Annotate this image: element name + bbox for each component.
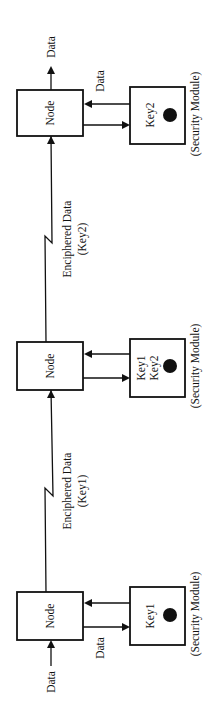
arrow-right-icon: [122, 121, 130, 129]
arrow-up-icon: [47, 136, 55, 144]
link-label-line2: (Key1): [76, 475, 89, 508]
arrow-left-icon: [84, 350, 92, 358]
key-dot-icon: [163, 359, 177, 373]
node-label-middle: Node: [44, 354, 56, 379]
node-label-bottom: Node: [44, 604, 56, 629]
module-key-label: Key2: [148, 355, 161, 380]
side-data-label-top: Data: [94, 70, 106, 92]
stage-bottom: Node Data Key1 (Security Module) Data: [17, 572, 202, 693]
module-key-label: Key1: [144, 603, 157, 628]
input-data-label: Data: [45, 671, 57, 693]
link-line-lightning: [45, 390, 53, 592]
stage-top: Data Node Data Key2 (Security Module): [17, 36, 202, 156]
node-label-top: Node: [44, 101, 56, 126]
arrow-up-icon: [47, 640, 55, 648]
stage-middle: Node Key1 Key2 (Security Module): [17, 324, 202, 409]
output-data-label: Data: [45, 36, 57, 58]
arrow-left-icon: [84, 599, 92, 607]
link-label-line1: Enciphered Data: [61, 453, 74, 530]
module-key-label: Key2: [144, 102, 157, 127]
module-caption-top: (Security Module): [189, 72, 202, 157]
module-caption-middle: (Security Module): [189, 324, 202, 409]
key-dot-icon: [163, 608, 177, 622]
link-label-line1: Enciphered Data: [61, 201, 74, 278]
arrow-left-icon: [84, 100, 92, 108]
module-caption-bottom: (Security Module): [189, 572, 202, 657]
link-line-lightning: [45, 136, 52, 342]
link-1: Enciphered Data (Key2): [45, 136, 89, 342]
side-data-label-bottom: Data: [94, 637, 106, 659]
arrow-up-icon: [47, 390, 55, 398]
encryption-diagram: Data Node Data Key2 (Security Module) En…: [0, 0, 223, 727]
link-2: Enciphered Data (Key1): [45, 390, 89, 592]
arrow-up-icon: [47, 66, 55, 74]
arrow-right-icon: [122, 374, 130, 382]
module-key-label: Key1: [135, 355, 148, 380]
key-dot-icon: [163, 108, 177, 122]
arrow-right-icon: [122, 623, 130, 631]
link-label-line2: (Key2): [76, 223, 89, 256]
